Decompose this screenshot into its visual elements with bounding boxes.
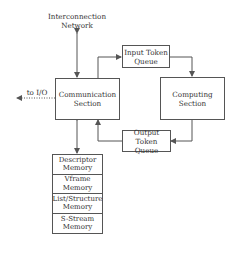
output-queue-line1: Output Token (123, 128, 170, 146)
vframe-memory: Vframe Memory (53, 175, 102, 195)
network-label-line2: Network (45, 21, 109, 30)
computing-label: Computing Section (161, 90, 224, 108)
memory-stack: Descriptor Memory Vframe Memory List/Str… (52, 154, 103, 234)
connector-lines (0, 0, 238, 256)
communication-line1: Communication (59, 90, 116, 99)
memory-line1: List/Structure (53, 195, 103, 204)
io-label: to I/O (24, 88, 50, 97)
memory-line2: Memory (53, 203, 103, 212)
communication-line2: Section (59, 99, 116, 108)
memory-line2: Memory (61, 223, 94, 232)
network-label-line1: Interconnection (45, 12, 109, 21)
output-queue-line2: Queue (123, 146, 170, 155)
list-structure-memory: List/Structure Memory (53, 194, 102, 214)
memory-line2: Memory (63, 184, 92, 193)
computing-section-box: Computing Section (160, 77, 225, 120)
network-label: Interconnection Network (45, 12, 109, 30)
input-queue-line1: Input Token (124, 48, 168, 57)
input-token-queue-box: Input Token Queue (122, 45, 170, 68)
memory-line1: Vframe (63, 175, 92, 184)
communication-section-box: Communication Section (55, 78, 120, 120)
output-token-queue-box: Output Token Queue (122, 130, 171, 152)
input-queue-line2: Queue (124, 57, 168, 66)
descriptor-memory: Descriptor Memory (53, 155, 102, 175)
s-stream-memory: S-Stream Memory (53, 214, 102, 234)
memory-line2: Memory (59, 164, 97, 173)
memory-line1: S-Stream (61, 215, 94, 224)
memory-line1: Descriptor (59, 156, 97, 165)
